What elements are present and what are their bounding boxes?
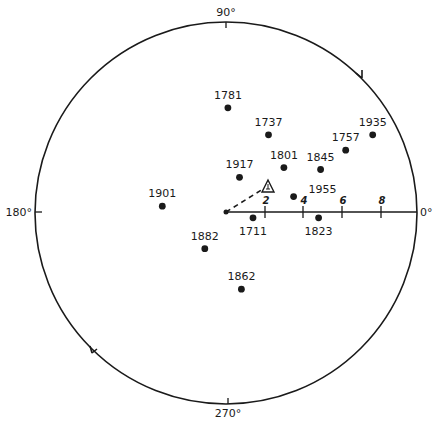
data-point-label: 1862 — [227, 270, 255, 283]
polar-scatter-chart: 90° 180° 270° 0° 2 4 6 8 178117371935175… — [0, 0, 437, 426]
scale-label-8: 8 — [379, 195, 386, 206]
data-point — [225, 104, 232, 111]
data-point-label: 1917 — [226, 158, 254, 171]
scale-label-6: 6 — [340, 195, 347, 206]
data-point — [236, 174, 243, 181]
data-point — [369, 131, 376, 138]
angle-label-0: 0° — [420, 206, 433, 219]
angle-label-90: 90° — [216, 6, 236, 19]
data-point-label: 1882 — [191, 230, 219, 243]
data-point-label: 1955 — [309, 183, 337, 196]
data-point — [250, 214, 257, 221]
data-point-label: 1935 — [359, 116, 387, 129]
data-point — [281, 164, 288, 171]
data-point — [342, 147, 349, 154]
data-point-label: 1711 — [239, 225, 267, 238]
data-point — [201, 245, 208, 252]
data-point-label: 1757 — [332, 131, 360, 144]
scale-label-4: 4 — [300, 195, 308, 206]
data-point — [159, 203, 166, 210]
data-point — [315, 214, 322, 221]
mean-triangle-icon — [262, 180, 274, 192]
scale-label-2: 2 — [263, 195, 270, 206]
angle-label-180: 180° — [6, 206, 33, 219]
data-point-label: 1781 — [214, 89, 242, 102]
data-point — [265, 131, 272, 138]
data-point — [317, 166, 324, 173]
data-point — [238, 286, 245, 293]
data-point-label: 1737 — [255, 116, 283, 129]
mean-vector-line — [226, 189, 263, 212]
data-point-label: 1901 — [148, 187, 176, 200]
data-point — [290, 193, 297, 200]
data-point-label: 1823 — [305, 225, 333, 238]
data-point-label: 1801 — [270, 149, 298, 162]
angle-label-270: 270° — [215, 407, 242, 420]
data-point-label: 1845 — [307, 151, 335, 164]
